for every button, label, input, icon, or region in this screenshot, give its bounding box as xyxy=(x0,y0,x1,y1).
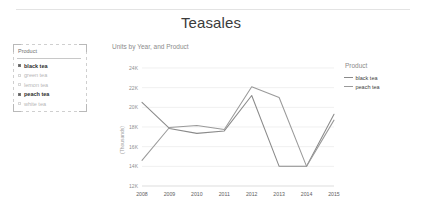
checkbox-icon[interactable] xyxy=(18,93,21,96)
x-axis-tick-label: 2008 xyxy=(136,191,148,197)
slicer-item-lemon-tea[interactable]: lemon tea xyxy=(17,80,85,90)
chart-legend: Product black tea peach tea xyxy=(344,62,416,91)
y-axis-tick-label: 12K xyxy=(129,183,139,189)
y-axis-tick-label: 20K xyxy=(129,104,139,110)
legend-item-label: peach tea xyxy=(356,84,380,90)
slicer-title: Product xyxy=(18,48,37,54)
chart-y-axis-title: (Thousands) xyxy=(119,126,125,154)
slicer-item-label: black tea xyxy=(24,63,48,69)
slicer-item-label: lemon tea xyxy=(24,82,48,88)
y-axis-tick-label: 22K xyxy=(129,85,139,91)
product-slicer[interactable]: Product black tea green tea lemon tea pe… xyxy=(13,44,87,112)
x-axis-tick-label: 2014 xyxy=(301,191,313,197)
checkbox-icon[interactable] xyxy=(18,83,21,86)
slicer-item-black-tea[interactable]: black tea xyxy=(17,61,85,71)
series-line-peach-tea[interactable] xyxy=(142,87,334,167)
x-axis-tick-label: 2009 xyxy=(164,191,176,197)
y-axis-tick-label: 16K xyxy=(129,144,139,150)
slicer-frame-edge-right xyxy=(86,51,87,105)
checkbox-icon[interactable] xyxy=(18,64,21,67)
chart-subtitle: Units by Year, and Product xyxy=(112,43,189,50)
slicer-handle-top-right[interactable] xyxy=(79,44,87,52)
legend-swatch-icon xyxy=(344,86,353,87)
x-axis-tick-label: 2010 xyxy=(191,191,203,197)
line-chart[interactable]: 24K22K20K18K16K14K12K 200820092010201120… xyxy=(112,60,340,208)
chart-x-axis-labels: 20082009201020112012201320142015 xyxy=(136,191,340,197)
legend-swatch-icon xyxy=(344,77,353,78)
slicer-frame-edge-bottom xyxy=(20,111,80,112)
x-axis-tick-label: 2011 xyxy=(219,191,230,197)
x-axis-tick-label: 2013 xyxy=(273,191,285,197)
chart-y-axis-labels: 24K22K20K18K16K14K12K xyxy=(129,65,139,189)
slicer-item-peach-tea[interactable]: peach tea xyxy=(17,90,85,100)
slicer-item-label: white tea xyxy=(24,101,46,107)
legend-title: Product xyxy=(344,62,416,69)
checkbox-icon[interactable] xyxy=(18,102,21,105)
checkbox-icon[interactable] xyxy=(18,74,21,77)
chart-series xyxy=(142,87,334,167)
y-axis-tick-label: 18K xyxy=(129,124,139,130)
slicer-item-green-tea[interactable]: green tea xyxy=(17,71,85,81)
slicer-title-divider xyxy=(17,58,81,59)
header-divider xyxy=(16,9,410,10)
slicer-item-label: green tea xyxy=(24,72,47,78)
y-axis-tick-label: 14K xyxy=(129,163,139,169)
legend-item-label: black tea xyxy=(356,75,378,81)
slicer-frame-edge-left xyxy=(13,51,14,105)
slicer-frame-edge-top xyxy=(20,44,80,45)
slicer-item-list: black tea green tea lemon tea peach tea … xyxy=(17,61,85,109)
x-axis-tick-label: 2012 xyxy=(246,191,258,197)
series-line-black-tea[interactable] xyxy=(142,96,334,167)
legend-item-black-tea[interactable]: black tea xyxy=(344,73,416,82)
y-axis-tick-label: 24K xyxy=(129,65,139,71)
chart-canvas: 24K22K20K18K16K14K12K 200820092010201120… xyxy=(112,60,340,208)
slicer-item-label: peach tea xyxy=(24,91,49,97)
page-title: Teasales xyxy=(0,14,422,31)
slicer-item-white-tea[interactable]: white tea xyxy=(17,99,85,109)
legend-item-peach-tea[interactable]: peach tea xyxy=(344,82,416,91)
x-axis-tick-label: 2015 xyxy=(328,191,340,197)
